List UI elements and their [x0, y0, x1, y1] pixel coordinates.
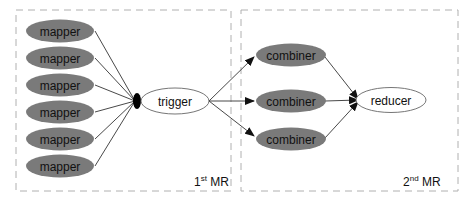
combiner-node: combiner — [256, 44, 326, 67]
combiner-edges — [325, 57, 358, 138]
svg-text:combiner: combiner — [266, 133, 315, 147]
mapper-node: mapper — [26, 101, 94, 124]
mapper-node: mapper — [26, 128, 94, 151]
mapper-node: mapper — [26, 47, 94, 70]
svg-text:mapper: mapper — [40, 106, 81, 120]
svg-text:mapper: mapper — [40, 52, 81, 66]
group-label-2nd-mr: 2nd MR — [403, 174, 441, 189]
svg-text:mapper: mapper — [40, 79, 81, 93]
mapreduce-diagram: mapper mapper mapper mapper mapper mappe… — [0, 0, 471, 202]
combiner-node: combiner — [256, 90, 326, 113]
svg-text:trigger: trigger — [158, 95, 192, 109]
group-label-1st-mr: 1st MR — [194, 174, 229, 189]
mapper-node: mapper — [26, 74, 94, 97]
svg-text:combiner: combiner — [266, 49, 315, 63]
merge-point-icon — [133, 93, 141, 109]
trigger-node: trigger — [141, 88, 209, 114]
svg-text:mapper: mapper — [40, 133, 81, 147]
combiner-nodes: combiner combiner combiner — [256, 44, 326, 151]
mapper-node: mapper — [26, 20, 94, 43]
mapper-node: mapper — [26, 155, 94, 178]
combiner-node: combiner — [256, 128, 326, 151]
mapper-edges — [95, 31, 135, 166]
reducer-node: reducer — [356, 88, 426, 113]
mapper-nodes: mapper mapper mapper mapper mapper mappe… — [26, 20, 94, 178]
svg-text:reducer: reducer — [371, 94, 412, 108]
svg-text:mapper: mapper — [40, 25, 81, 39]
svg-text:mapper: mapper — [40, 160, 81, 174]
svg-text:combiner: combiner — [266, 95, 315, 109]
